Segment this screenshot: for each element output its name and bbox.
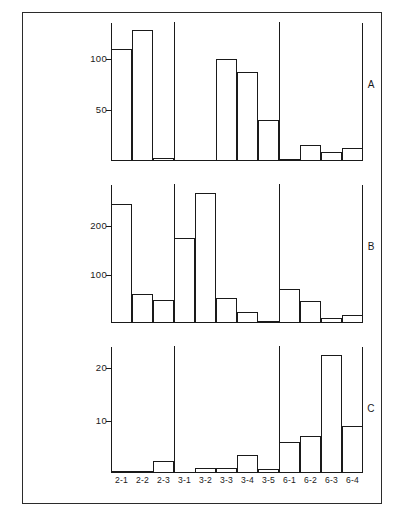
panel-b-plot: 100200 xyxy=(111,185,363,323)
panel-b: 100200 B xyxy=(23,179,383,337)
panel-c-bars xyxy=(111,347,363,473)
bar xyxy=(258,120,279,161)
bar xyxy=(258,469,279,473)
bar xyxy=(174,472,195,473)
panel-c: 1020 2-12-22-33-13-23-33-43-56-16-26-36-… xyxy=(23,341,383,501)
bar xyxy=(195,160,216,161)
bar xyxy=(216,298,237,323)
bar xyxy=(237,72,258,161)
bar xyxy=(195,193,216,323)
bar xyxy=(321,152,342,161)
bar xyxy=(300,145,321,161)
bar xyxy=(111,204,132,323)
bar xyxy=(195,468,216,473)
bar xyxy=(174,160,195,161)
x-tick-label: 2-3 xyxy=(157,475,170,485)
panel-b-bars xyxy=(111,185,363,323)
bar xyxy=(342,426,363,473)
x-tick-label: 6-3 xyxy=(325,475,338,485)
y-tick-label: 200 xyxy=(90,220,107,231)
panel-a-plot: 50100 xyxy=(111,23,363,161)
x-tick-label: 6-2 xyxy=(304,475,317,485)
x-tick-label: 3-3 xyxy=(220,475,233,485)
panel-c-plot: 1020 xyxy=(111,347,363,473)
bar xyxy=(300,301,321,323)
y-tick-label: 100 xyxy=(90,269,107,280)
bar xyxy=(300,436,321,473)
bar xyxy=(216,59,237,161)
bar xyxy=(153,300,174,323)
bar xyxy=(279,442,300,474)
x-tick-label: 3-2 xyxy=(199,475,212,485)
bar xyxy=(174,238,195,323)
bar xyxy=(279,159,300,161)
group-separator xyxy=(174,184,175,323)
bar xyxy=(237,312,258,323)
group-separator xyxy=(279,346,280,473)
x-tick-label: 2-2 xyxy=(136,475,149,485)
y-tick-label: 50 xyxy=(96,104,107,115)
bar xyxy=(111,49,132,161)
bar xyxy=(153,461,174,473)
panel-a-letter: A xyxy=(368,79,375,90)
group-separator xyxy=(174,346,175,473)
bar xyxy=(132,471,153,473)
bar xyxy=(279,289,300,323)
x-axis-tick-labels: 2-12-22-33-13-23-33-43-56-16-26-36-4 xyxy=(111,475,363,491)
x-tick-label: 6-1 xyxy=(283,475,296,485)
x-tick-label: 3-4 xyxy=(241,475,254,485)
figure-frame: 50100 A 100200 B 1020 2-12-22-33-13-23-3… xyxy=(22,12,382,504)
bar xyxy=(237,455,258,473)
bar xyxy=(321,318,342,323)
y-tick-label: 100 xyxy=(90,53,107,64)
x-tick-label: 2-1 xyxy=(115,475,128,485)
bar xyxy=(258,321,279,323)
x-tick-label: 6-4 xyxy=(346,475,359,485)
y-tick-label: 20 xyxy=(96,362,107,373)
group-separator xyxy=(279,22,280,161)
group-separator xyxy=(174,22,175,161)
bar xyxy=(111,471,132,473)
x-tick-label: 3-1 xyxy=(178,475,191,485)
group-separator xyxy=(279,184,280,323)
panel-c-letter: C xyxy=(367,403,375,414)
bar xyxy=(216,468,237,473)
x-tick-label: 3-5 xyxy=(262,475,275,485)
bar xyxy=(342,315,363,323)
bar xyxy=(132,294,153,323)
bar xyxy=(132,30,153,161)
y-tick-label: 10 xyxy=(96,415,107,426)
bar xyxy=(321,355,342,473)
panel-a: 50100 A xyxy=(23,17,383,175)
bar xyxy=(153,158,174,161)
panel-b-letter: B xyxy=(368,241,375,252)
panel-a-bars xyxy=(111,23,363,161)
bar xyxy=(342,148,363,161)
